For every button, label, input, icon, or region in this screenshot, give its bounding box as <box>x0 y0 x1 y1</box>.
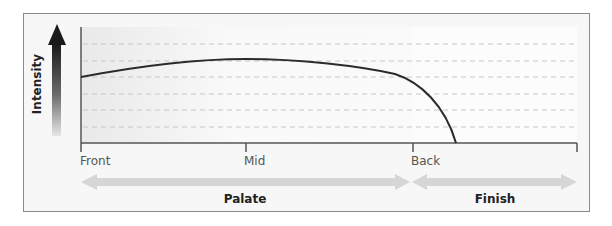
finish-arrow-icon <box>412 174 577 190</box>
tick-label-mid: Mid <box>244 154 265 168</box>
region-label-palate: Palate <box>224 192 267 206</box>
tick-label-back: Back <box>411 154 440 168</box>
intensity-arrow-icon <box>48 24 66 136</box>
region-arrows <box>81 174 577 190</box>
region-label-finish: Finish <box>475 192 516 206</box>
intensity-chart <box>0 0 612 226</box>
palate-arrow-icon <box>81 174 410 190</box>
y-axis-label: Intensity <box>30 54 44 114</box>
tick-label-front: Front <box>80 154 110 168</box>
